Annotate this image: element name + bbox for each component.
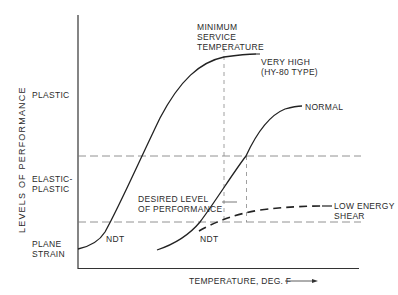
min-service-temp-label-3: TEMPERATURE [197, 42, 264, 52]
ndt-label-normal: NDT [200, 234, 218, 244]
low-energy-shear-label-2: SHEAR [334, 211, 365, 221]
very-high-label-1: VERY HIGH [261, 57, 310, 67]
level-elastic-plastic-line2: PLASTIC [32, 184, 70, 194]
very-high-label-2: (HY-80 TYPE) [261, 67, 318, 77]
min-service-temp-label-2: SERVICE [197, 32, 236, 42]
normal-curve [157, 106, 302, 250]
level-plane-strain-line1: PLANE [32, 239, 61, 249]
x-axis-arrow-head-icon [312, 279, 318, 283]
normal-label: NORMAL [305, 102, 343, 112]
level-elastic-plastic-line1: ELASTIC- [32, 174, 73, 184]
level-plane-strain-line2: STRAIN [32, 249, 65, 259]
desired-level-label-1: DESIRED LEVEL [138, 194, 209, 204]
very-high-curve [78, 54, 256, 249]
low-energy-shear-label-1: LOW ENERGY [334, 201, 395, 211]
y-axis-title: LEVELS OF PERFORMANCE [17, 86, 27, 233]
x-axis-title: TEMPERATURE, DEG. F [189, 276, 291, 286]
ndt-label-very-high: NDT [106, 234, 124, 244]
level-plastic: PLASTIC [32, 90, 70, 100]
min-service-temp-label-1: MINIMUM [197, 22, 237, 32]
desired-level-label-2: OF PERFORMANCE [138, 204, 222, 214]
